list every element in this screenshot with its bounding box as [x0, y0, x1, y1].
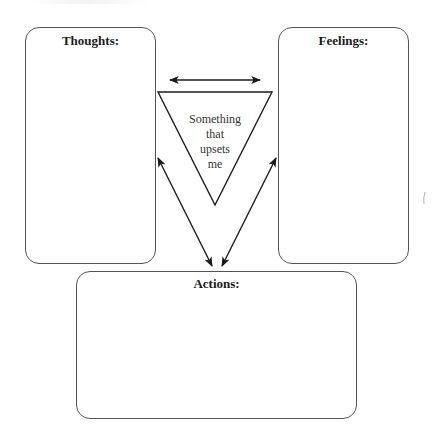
thoughts-box[interactable]: Thoughts: — [25, 27, 156, 264]
actions-title: Actions: — [77, 276, 356, 292]
feelings-box[interactable]: Feelings: — [278, 27, 409, 264]
triangle-label-line: Something — [175, 112, 255, 127]
triangle-label-line: that — [175, 127, 255, 142]
feelings-title: Feelings: — [279, 33, 408, 49]
arrow-thoughts-actions — [158, 158, 212, 266]
triangle-label-line: me — [175, 157, 255, 172]
actions-box[interactable]: Actions: — [76, 271, 357, 419]
triangle-label: Something that upsets me — [175, 112, 255, 172]
triangle-label-line: upsets — [175, 142, 255, 157]
thoughts-title: Thoughts: — [26, 33, 155, 49]
stray-mark — [424, 192, 425, 204]
